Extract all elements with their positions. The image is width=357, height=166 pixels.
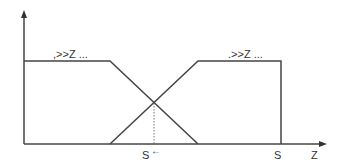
x-axis-arrow-icon (319, 141, 327, 147)
left-set-label: ,>>Z ... (53, 49, 88, 60)
x-axis-label: Z (311, 150, 318, 161)
crossover-tick-label: S (142, 150, 149, 161)
left-membership-function (24, 61, 198, 144)
right-set-label: .>>Z ... (228, 49, 263, 60)
right-membership-function (110, 61, 281, 144)
right-tick-label: S (274, 150, 281, 161)
diagram-canvas (0, 0, 357, 166)
crossover-arrow-icon: ← (151, 146, 161, 156)
y-axis-arrow-icon (21, 10, 27, 18)
